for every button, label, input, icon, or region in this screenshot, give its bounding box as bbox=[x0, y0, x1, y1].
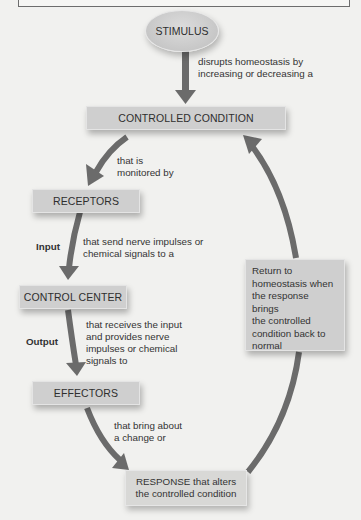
arrow-stimulus-to-condition bbox=[175, 50, 196, 104]
effectors-node: EFFECTORS bbox=[32, 381, 140, 405]
receptors-node: RECEPTORS bbox=[32, 189, 140, 213]
edge-label-monitored: that is monitored by bbox=[117, 155, 174, 179]
response-node: RESPONSE that alters the controlled cond… bbox=[125, 470, 247, 506]
arrow-control-to-effectors bbox=[66, 310, 86, 376]
stimulus-label: STIMULUS bbox=[155, 25, 208, 37]
input-tag: Input bbox=[36, 241, 60, 253]
controlled-condition-node: CONTROLLED CONDITION bbox=[86, 106, 286, 130]
edge-label-input: that send nerve impulses or chemical sig… bbox=[83, 236, 203, 260]
stimulus-node: STIMULUS bbox=[145, 10, 219, 52]
arrow-receptors-to-control bbox=[59, 212, 80, 280]
control-center-node: CONTROL CENTER bbox=[19, 285, 127, 309]
edge-label-change: that bring about a change or bbox=[114, 420, 182, 444]
edge-label-output: that receives the input and provides ner… bbox=[86, 319, 182, 367]
output-tag: Output bbox=[26, 336, 58, 348]
return-to-homeostasis-note: Return to homeostasis when the response … bbox=[245, 259, 345, 351]
edge-label-stimulus: disrupts homeostasis by increasing or de… bbox=[198, 56, 313, 80]
